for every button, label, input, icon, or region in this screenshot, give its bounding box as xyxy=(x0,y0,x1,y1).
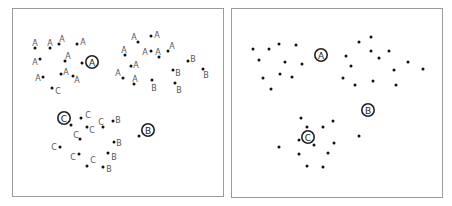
data-point xyxy=(395,84,398,87)
data-point xyxy=(327,152,330,155)
data-point xyxy=(42,76,45,79)
data-point xyxy=(150,50,153,53)
point-labels: AAAAAAAAACAAAAAABABBAABBCCCBCCBCBCB xyxy=(32,31,208,174)
data-point xyxy=(137,41,140,44)
point-label: C xyxy=(73,131,79,140)
point-label: A xyxy=(74,76,80,85)
data-point xyxy=(138,135,141,138)
data-point xyxy=(174,82,177,85)
data-point xyxy=(112,120,115,123)
data-point xyxy=(354,84,357,87)
centroid-b: B xyxy=(362,104,374,116)
data-point xyxy=(151,79,154,82)
data-point xyxy=(298,153,301,156)
point-label: C xyxy=(51,143,57,152)
data-point xyxy=(60,73,63,76)
data-point xyxy=(130,65,133,68)
data-point xyxy=(407,61,410,64)
data-point xyxy=(51,87,54,90)
centroid-label: A xyxy=(89,58,96,68)
point-label: B xyxy=(106,165,112,174)
point-label: A xyxy=(32,58,38,67)
data-point xyxy=(59,146,62,149)
data-point xyxy=(306,165,309,168)
point-label: A xyxy=(63,68,69,77)
point-label: A xyxy=(115,69,121,78)
data-point xyxy=(39,58,42,61)
data-point xyxy=(172,69,175,72)
data-point xyxy=(258,59,261,62)
data-point xyxy=(278,43,281,46)
data-point xyxy=(322,166,325,169)
point-label: B xyxy=(190,55,196,64)
point-label: C xyxy=(85,111,91,120)
point-label: A xyxy=(169,42,175,51)
centroid-c: C xyxy=(58,112,70,124)
data-point xyxy=(268,48,271,51)
point-label: B xyxy=(151,84,157,93)
point-label: B xyxy=(111,153,117,162)
data-point xyxy=(102,166,105,169)
point-label: A xyxy=(133,61,139,70)
centroid-markers: ACBABC xyxy=(58,49,374,143)
data-point xyxy=(422,68,425,71)
data-point xyxy=(86,126,89,129)
data-point xyxy=(370,50,373,53)
data-point xyxy=(270,88,273,91)
data-point xyxy=(378,57,381,60)
data-points xyxy=(34,35,425,169)
data-point xyxy=(358,135,361,138)
data-point xyxy=(298,139,301,142)
point-label: B xyxy=(175,69,181,78)
data-point xyxy=(295,44,298,47)
centroid-a: A xyxy=(315,49,327,61)
point-label: A xyxy=(121,46,127,55)
point-label: A xyxy=(131,33,137,42)
point-label: C xyxy=(98,118,104,127)
centroid-label: B xyxy=(365,106,371,116)
centroid-a: A xyxy=(86,56,98,68)
point-label: C xyxy=(70,153,76,162)
data-point xyxy=(393,69,396,72)
centroid-label: A xyxy=(318,51,325,61)
centroid-c: C xyxy=(302,131,314,143)
data-point xyxy=(78,153,81,156)
data-point xyxy=(388,50,391,53)
data-point xyxy=(313,144,316,147)
point-label: A xyxy=(154,31,160,40)
point-label: C xyxy=(55,87,61,96)
data-point xyxy=(332,120,335,123)
data-point xyxy=(70,124,73,127)
point-label: A xyxy=(35,74,41,83)
data-point xyxy=(150,35,153,38)
centroid-label: C xyxy=(305,133,311,143)
point-label: A xyxy=(142,48,148,57)
data-point xyxy=(350,65,353,68)
cluster-diagram: AAAAAAAAACAAAAAABABBAABBCCCBCCBCBCB ACBA… xyxy=(0,0,452,206)
point-label: C xyxy=(90,156,96,165)
point-label: A xyxy=(80,38,86,47)
data-point xyxy=(279,73,282,76)
data-point xyxy=(86,165,89,168)
data-point xyxy=(80,117,83,120)
data-point xyxy=(372,80,375,83)
data-point xyxy=(278,146,281,149)
data-point xyxy=(333,142,336,145)
data-point xyxy=(107,152,110,155)
centroid-b: B xyxy=(142,124,154,136)
data-point xyxy=(76,43,79,46)
data-point xyxy=(187,60,190,63)
point-label: B xyxy=(116,139,122,148)
data-point xyxy=(81,62,84,65)
point-label: B xyxy=(115,116,121,125)
point-label: A xyxy=(65,52,71,61)
point-label: A xyxy=(59,35,65,44)
point-label: B xyxy=(203,71,209,80)
data-point xyxy=(370,36,373,39)
point-label: C xyxy=(89,126,95,135)
data-point xyxy=(262,77,265,80)
data-point xyxy=(301,63,304,66)
point-label: A xyxy=(47,39,53,48)
centroid-label: C xyxy=(61,114,67,124)
data-point xyxy=(342,77,345,80)
